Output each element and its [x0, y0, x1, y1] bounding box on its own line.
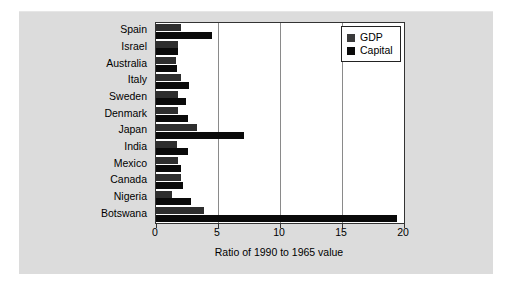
bar-denmark-gdp [156, 107, 178, 114]
bar-mexico-capital [156, 165, 181, 172]
x-tick-label-15: 15 [335, 226, 347, 238]
gridline [280, 23, 281, 223]
category-label-italy: Italy [0, 74, 147, 85]
legend-label: GDP [360, 32, 383, 43]
legend-swatch-gdp-icon [347, 34, 355, 42]
bar-australia-gdp [156, 57, 176, 64]
x-tick-label-20: 20 [397, 226, 409, 238]
bar-israel-capital [156, 48, 178, 55]
legend-item-capital: Capital [347, 44, 393, 57]
bar-india-capital [156, 148, 188, 155]
category-label-spain: Spain [0, 24, 147, 35]
bar-italy-capital [156, 82, 189, 89]
bar-mexico-gdp [156, 157, 178, 164]
category-label-india: India [0, 141, 147, 152]
bar-sweden-capital [156, 98, 186, 105]
x-tick-label-5: 5 [214, 226, 220, 238]
bar-spain-capital [156, 32, 212, 39]
bar-canada-capital [156, 182, 183, 189]
category-label-denmark: Denmark [0, 108, 147, 119]
gridline [218, 23, 219, 223]
bar-botswana-gdp [156, 207, 204, 214]
category-label-mexico: Mexico [0, 158, 147, 169]
bar-spain-gdp [156, 24, 181, 31]
bar-nigeria-gdp [156, 191, 172, 198]
bar-denmark-capital [156, 115, 188, 122]
category-axis-labels: SpainIsraelAustraliaItalySwedenDenmarkJa… [0, 22, 151, 222]
bar-japan-capital [156, 132, 244, 139]
legend-swatch-capital-icon [347, 47, 355, 55]
bar-japan-gdp [156, 124, 197, 131]
category-label-canada: Canada [0, 174, 147, 185]
bar-botswana-capital [156, 215, 397, 222]
bar-israel-gdp [156, 41, 178, 48]
chart-figure: SpainIsraelAustraliaItalySwedenDenmarkJa… [0, 0, 505, 285]
category-label-botswana: Botswana [0, 208, 147, 219]
x-axis-tick-labels: 05101520 [0, 226, 505, 242]
legend-label: Capital [360, 45, 393, 56]
bar-india-gdp [156, 141, 177, 148]
bar-nigeria-capital [156, 198, 191, 205]
bar-sweden-gdp [156, 91, 178, 98]
category-label-australia: Australia [0, 58, 147, 69]
bar-italy-gdp [156, 74, 181, 81]
bar-australia-capital [156, 65, 177, 72]
x-axis-title: Ratio of 1990 to 1965 value [155, 246, 403, 258]
category-label-sweden: Sweden [0, 91, 147, 102]
chart-legend: GDPCapital [341, 26, 401, 62]
category-label-israel: Israel [0, 41, 147, 52]
x-tick-label-0: 0 [152, 226, 158, 238]
category-label-nigeria: Nigeria [0, 191, 147, 202]
x-tick-label-10: 10 [273, 226, 285, 238]
legend-item-gdp: GDP [347, 31, 393, 44]
bar-canada-gdp [156, 174, 181, 181]
category-label-japan: Japan [0, 124, 147, 135]
